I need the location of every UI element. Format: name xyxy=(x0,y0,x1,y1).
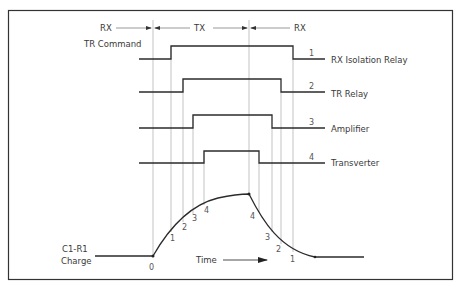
signal-name-tr-relay: TR Relay xyxy=(330,89,368,99)
pulse-amplifier xyxy=(139,115,325,128)
fall-mark: 3 xyxy=(265,233,270,242)
signal-number: 1 xyxy=(309,49,314,58)
time-label: Time xyxy=(195,255,217,265)
pulse-tr-relay xyxy=(139,79,325,92)
charge-label-line2: Charge xyxy=(61,256,92,266)
fall-mark: 4 xyxy=(250,212,255,221)
timing-diagram: RX TX RX TR Command 1 RX Isolation Relay… xyxy=(0,0,461,287)
fall-mark: 1 xyxy=(290,255,295,264)
signal-number: 2 xyxy=(309,82,314,91)
pulse-transverter xyxy=(139,151,325,163)
rise-mark: 1 xyxy=(170,234,175,243)
curve-origin-mark: 0 xyxy=(149,263,154,272)
pulse-rx-isolation-relay xyxy=(139,46,325,59)
tr-command-label: TR Command xyxy=(83,39,142,49)
rx-right-label: RX xyxy=(294,23,306,33)
rise-mark: 2 xyxy=(182,223,187,232)
rx-left-label: RX xyxy=(100,23,112,33)
diagram-border xyxy=(9,11,453,280)
guide-lines xyxy=(153,20,293,256)
signal-number: 4 xyxy=(309,153,314,162)
signal-number: 3 xyxy=(309,118,314,127)
signal-name-transverter: Transverter xyxy=(330,158,380,168)
charge-curve xyxy=(95,194,364,257)
charge-label-line1: C1-R1 xyxy=(62,244,88,254)
tx-label: TX xyxy=(193,23,205,33)
signal-name-rx-isolation-relay: RX Isolation Relay xyxy=(331,55,407,65)
rise-mark: 4 xyxy=(204,206,209,215)
signal-name-amplifier: Amplifier xyxy=(331,124,370,134)
fall-mark: 2 xyxy=(276,245,281,254)
rise-mark: 3 xyxy=(192,214,197,223)
